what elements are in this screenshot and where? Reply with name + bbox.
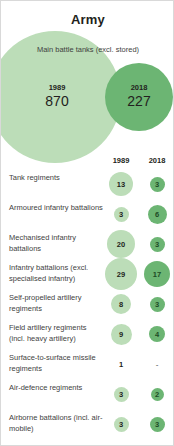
venn-value-1989: 870	[29, 93, 85, 110]
bubble-value: 2	[155, 390, 159, 399]
cell-1989: 3	[105, 199, 137, 229]
venn-label-1989: 1989 870	[29, 83, 85, 110]
cell-2018: 6	[141, 199, 173, 229]
venn-subtitle: Main battle tanks (excl. stored)	[1, 45, 174, 54]
bubble-value: 3	[155, 420, 159, 429]
value-plain: 1	[119, 360, 123, 369]
table-body: Tank regiments133Armoured infantry batta…	[1, 169, 174, 439]
bubble-value: 13	[117, 180, 125, 189]
table-row: Tank regiments133	[1, 169, 174, 199]
column-header-1989: 1989	[105, 156, 137, 165]
cell-1989: 8	[105, 289, 137, 319]
bubble-value: 3	[119, 210, 123, 219]
bubble-value: 17	[153, 270, 161, 279]
cell-2018: 3	[141, 169, 173, 199]
venn-value-2018: 227	[111, 93, 167, 110]
table-row: Surface-to-surface missile regiments1-	[1, 349, 174, 379]
cell-1989: 20	[105, 229, 137, 259]
value-bubble-2018: 2	[151, 388, 164, 401]
table-row: Infantry battalions (excl. specialised i…	[1, 259, 174, 289]
cell-2018: 3	[141, 409, 173, 439]
page-title: Army	[71, 12, 105, 27]
table-row: Self-propelled artillery regiments83	[1, 289, 174, 319]
bubble-value: 20	[117, 240, 125, 249]
row-label: Self-propelled artillery regiments	[9, 293, 103, 314]
cell-2018: -	[141, 349, 173, 379]
bubble-value: 3	[155, 300, 159, 309]
cell-2018: 3	[141, 289, 173, 319]
bubble-value: 29	[117, 270, 125, 279]
row-label: Air-defence regiments	[9, 383, 103, 394]
row-label: Infantry battalions (excl. specialised i…	[9, 263, 103, 284]
row-label: Armoured infantry battalions	[9, 203, 103, 214]
row-label: Tank regiments	[9, 173, 103, 184]
cell-1989: 3	[105, 409, 137, 439]
value-bubble-1989: 20	[107, 230, 135, 258]
venn-label-2018: 2018 227	[111, 83, 167, 110]
value-bubble-1989: 3	[114, 387, 129, 402]
value-bubble-2018: 4	[149, 326, 165, 342]
row-label: Mechanised infantry battalions	[9, 233, 103, 254]
value-bubble-2018: 3	[150, 417, 165, 432]
value-bubble-2018: 3	[150, 297, 165, 312]
cell-2018: 4	[141, 319, 173, 349]
value-bubble-1989: 3	[114, 207, 129, 222]
value-bubble-1989: 8	[111, 294, 131, 314]
row-label: Airborne battalions (incl. air-mobile)	[9, 413, 103, 434]
cell-1989: 29	[105, 259, 137, 289]
value-bubble-1989: 13	[109, 172, 133, 196]
bubble-value: 3	[119, 420, 123, 429]
army-infographic: Army Main battle tanks (excl. stored) 19…	[0, 0, 174, 446]
value-bubble-2018: 17	[144, 261, 170, 287]
bubble-value: 4	[155, 330, 159, 339]
row-label: Field artillery regiments (incl. heavy a…	[9, 323, 103, 344]
table-row: Air-defence regiments32	[1, 379, 174, 409]
table-row: Armoured infantry battalions36	[1, 199, 174, 229]
bubble-value: 3	[155, 240, 159, 249]
cell-1989: 9	[105, 319, 137, 349]
value-none: -	[156, 360, 159, 369]
bubble-value: 3	[119, 390, 123, 399]
cell-2018: 3	[141, 229, 173, 259]
cell-1989: 13	[105, 169, 137, 199]
bubble-value: 3	[155, 180, 159, 189]
value-bubble-2018: 3	[150, 237, 165, 252]
bubble-value: 8	[119, 300, 123, 309]
value-bubble-2018: 6	[148, 205, 167, 224]
table-row: Mechanised infantry battalions203	[1, 229, 174, 259]
venn-diagram: Main battle tanks (excl. stored) 1989 87…	[1, 31, 174, 163]
value-bubble-1989: 9	[111, 324, 132, 345]
cell-2018: 17	[141, 259, 173, 289]
bubble-value: 9	[119, 330, 123, 339]
table-row: Airborne battalions (incl. air-mobile)33	[1, 409, 174, 439]
table-header-row: 1989 2018	[1, 153, 174, 169]
comparison-table: 1989 2018 Tank regiments133Armoured infa…	[1, 153, 174, 439]
column-header-2018: 2018	[141, 156, 173, 165]
value-bubble-1989: 3	[114, 417, 129, 432]
cell-1989: 3	[105, 379, 137, 409]
table-row: Field artillery regiments (incl. heavy a…	[1, 319, 174, 349]
venn-year-2018: 2018	[111, 83, 167, 93]
value-bubble-2018: 3	[150, 177, 165, 192]
cell-1989: 1	[105, 349, 137, 379]
venn-year-1989: 1989	[29, 83, 85, 93]
bubble-value: 6	[155, 210, 159, 219]
header: Army	[1, 1, 174, 37]
row-label: Surface-to-surface missile regiments	[9, 353, 103, 374]
cell-2018: 2	[141, 379, 173, 409]
value-bubble-1989: 29	[105, 258, 137, 290]
